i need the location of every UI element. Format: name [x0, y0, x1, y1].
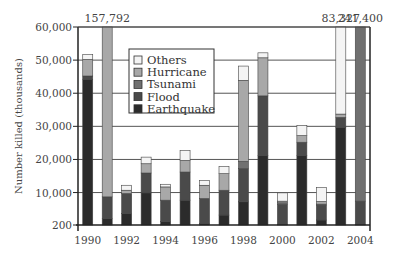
bar-segment-hurricane — [122, 190, 132, 193]
bar-2002 — [316, 188, 326, 225]
x-tick-label: 2000 — [269, 234, 296, 246]
bar-1998 — [238, 66, 248, 225]
bar-segment-tsunami — [238, 161, 248, 168]
bar-segment-flood — [336, 117, 346, 127]
bar-1992 — [122, 185, 132, 225]
bar-2000 — [277, 193, 287, 225]
bar-segment-hurricane — [258, 58, 268, 96]
bar-segment-hurricane — [102, 27, 112, 197]
y-tick-label: 200 — [52, 219, 72, 231]
bar-total-annotation: 157,792 — [84, 12, 130, 25]
y-tick-label: 60,000 — [35, 21, 72, 33]
bar-2003 — [336, 27, 346, 225]
bar-segment-flood — [355, 201, 365, 224]
bar-1993 — [141, 157, 151, 225]
legend-swatch — [134, 105, 142, 113]
bar-segment-flood — [297, 142, 307, 155]
bar-segment-earthquake — [238, 202, 248, 225]
y-tick-label: 30,000 — [35, 120, 72, 132]
bar-segment-earthquake — [102, 218, 112, 225]
bar-1990 — [83, 54, 93, 225]
bar-segment-flood — [238, 169, 248, 202]
legend-label: Earthquake — [147, 102, 215, 116]
bar-segment-flood — [277, 204, 287, 224]
bar-segment-earthquake — [336, 127, 346, 225]
x-tick-label: 1992 — [113, 234, 140, 246]
bar-segment-hurricane — [297, 136, 307, 143]
x-tick-label: 2002 — [308, 234, 335, 246]
bar-segment-others — [316, 188, 326, 202]
bar-segment-tsunami — [355, 27, 365, 201]
bar-segment-others — [336, 27, 346, 114]
bar-segment-flood — [122, 194, 132, 214]
bar-segment-hurricane — [238, 80, 248, 161]
bar-segment-others — [238, 66, 248, 80]
bar-segment-flood — [200, 199, 210, 224]
bar-segment-hurricane — [316, 201, 326, 204]
y-tick-label: 10,000 — [35, 187, 72, 199]
bar-segment-others — [161, 184, 171, 187]
bar-segment-others — [297, 126, 307, 136]
bar-1994 — [161, 184, 171, 225]
bar-segment-hurricane — [180, 160, 190, 172]
bar-segment-hurricane — [83, 59, 93, 76]
x-tick-label: 1998 — [230, 234, 257, 246]
bar-segment-flood — [219, 190, 229, 215]
bar-segment-hurricane — [141, 164, 151, 173]
bar-2004 — [355, 27, 365, 225]
bar-1999 — [258, 53, 268, 225]
bar-segment-flood — [258, 96, 268, 156]
bar-segment-hurricane — [219, 174, 229, 191]
y-tick-label: 20,000 — [35, 153, 72, 165]
bar-segment-others — [180, 151, 190, 161]
bar-annotations: 157,79283,327241,400 — [84, 12, 383, 25]
y-tick-label: 40,000 — [35, 87, 72, 99]
bar-segment-earthquake — [258, 155, 268, 225]
y-tick-label: 50,000 — [35, 54, 72, 66]
bar-segment-earthquake — [83, 79, 93, 225]
bar-segment-flood — [316, 205, 326, 220]
bar-segment-hurricane — [161, 187, 171, 200]
bar-segment-hurricane — [336, 114, 346, 117]
bar-total-annotation: 241,400 — [338, 12, 384, 25]
legend-swatch — [134, 93, 142, 101]
bar-segment-others — [200, 180, 210, 185]
bar-segment-earthquake — [141, 193, 151, 225]
bar-segment-flood — [83, 76, 93, 79]
legend-swatch — [134, 80, 142, 88]
bar-segment-others — [258, 53, 268, 58]
bar-segment-flood — [161, 200, 171, 222]
bar-segment-others — [122, 185, 132, 190]
legend: OthersHurricaneTsunamiFloodEarthquake — [129, 49, 215, 116]
x-tick-label: 1996 — [191, 234, 218, 246]
bar-segment-flood — [180, 172, 190, 200]
bar-segment-earthquake — [180, 200, 190, 225]
bar-segment-earthquake — [122, 213, 132, 225]
bar-segment-others — [219, 166, 229, 173]
bar-segment-flood — [141, 173, 151, 193]
bar-segment-earthquake — [219, 215, 229, 225]
x-tick-label: 1990 — [74, 234, 101, 246]
x-tick-label: 2004 — [347, 234, 374, 246]
x-tick-label: 1994 — [152, 234, 179, 246]
stacked-bar-chart: 20010,00020,00030,00040,00050,00060,000 … — [0, 0, 399, 263]
bar-segment-flood — [102, 197, 112, 219]
bar-1995 — [180, 151, 190, 225]
bar-segment-others — [277, 193, 287, 201]
y-axis-label: Number killed (thousands) — [13, 58, 24, 194]
legend-swatch — [134, 56, 142, 64]
bar-2001 — [297, 126, 307, 225]
bar-segment-earthquake — [297, 155, 307, 225]
bar-segment-others — [83, 54, 93, 59]
bar-1996 — [200, 180, 210, 225]
bar-1991 — [102, 27, 112, 225]
bar-1997 — [219, 166, 229, 225]
bar-segment-hurricane — [200, 185, 210, 198]
x-axis-ticks: 19901992199419961998200020022004 — [74, 234, 374, 246]
y-axis-ticks: 20010,00020,00030,00040,00050,00060,000 — [35, 21, 78, 231]
bar-segment-others — [141, 157, 151, 164]
legend-swatch — [134, 68, 142, 76]
